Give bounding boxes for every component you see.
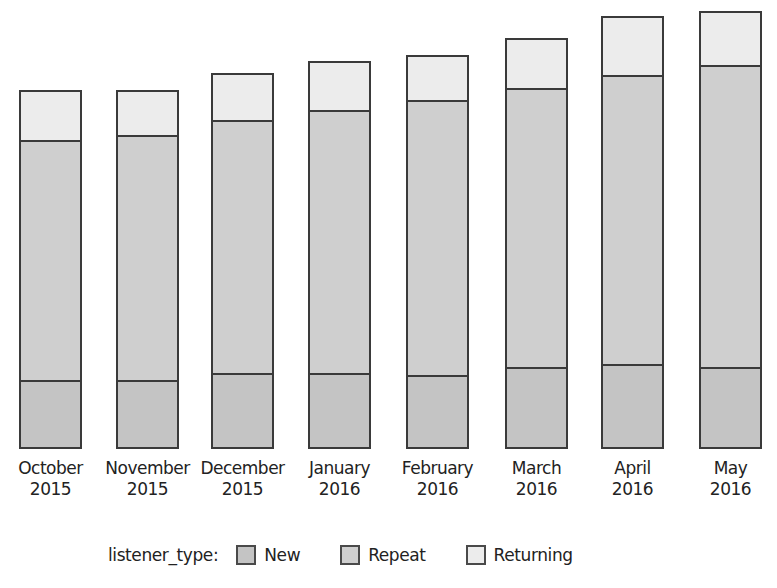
- segment-repeat: [21, 142, 80, 382]
- segment-returning: [603, 18, 662, 77]
- x-label-year: 2016: [578, 479, 688, 500]
- x-label-month: May: [676, 458, 777, 479]
- segment-repeat: [213, 122, 272, 375]
- x-label-year: 2016: [482, 479, 592, 500]
- segment-returning: [213, 75, 272, 122]
- segment-new: [507, 369, 566, 447]
- x-label-month: April: [578, 458, 688, 479]
- x-label-year: 2016: [285, 479, 395, 500]
- x-axis-label: May2016: [676, 458, 777, 500]
- segment-new: [213, 375, 272, 447]
- segment-repeat: [507, 90, 566, 369]
- legend-swatch-new: [236, 545, 256, 565]
- segment-returning: [310, 63, 369, 112]
- x-axis-label: February2016: [383, 458, 493, 500]
- x-axis-label: October2015: [0, 458, 106, 500]
- bar-may-2016: [699, 11, 762, 449]
- x-label-month: November: [93, 458, 203, 479]
- segment-repeat: [603, 77, 662, 366]
- segment-repeat: [310, 112, 369, 375]
- bar-december-2015: [211, 73, 274, 449]
- segment-repeat: [701, 67, 760, 369]
- x-label-year: 2015: [188, 479, 298, 500]
- legend-item-repeat: Repeat: [340, 545, 425, 565]
- stacked-bar-chart: October2015November2015December2015Janua…: [0, 0, 777, 588]
- x-label-month: October: [0, 458, 106, 479]
- x-label-month: January: [285, 458, 395, 479]
- legend-label-returning: Returning: [494, 545, 573, 565]
- bar-april-2016: [601, 16, 664, 449]
- segment-returning: [118, 92, 177, 137]
- x-axis-label: January2016: [285, 458, 395, 500]
- legend: listener_type: New Repeat Returning: [108, 542, 613, 568]
- x-label-year: 2015: [0, 479, 106, 500]
- x-label-year: 2015: [93, 479, 203, 500]
- x-label-month: February: [383, 458, 493, 479]
- x-label-year: 2016: [383, 479, 493, 500]
- segment-repeat: [408, 102, 467, 377]
- legend-label-repeat: Repeat: [368, 545, 425, 565]
- x-axis-label: December2015: [188, 458, 298, 500]
- segment-returning: [701, 13, 760, 67]
- legend-item-returning: Returning: [466, 545, 573, 565]
- segment-new: [408, 377, 467, 447]
- x-label-month: March: [482, 458, 592, 479]
- x-axis-label: November2015: [93, 458, 203, 500]
- legend-title: listener_type:: [108, 545, 218, 565]
- legend-swatch-returning: [466, 545, 486, 565]
- legend-swatch-repeat: [340, 545, 360, 565]
- segment-returning: [21, 92, 80, 142]
- segment-returning: [507, 40, 566, 90]
- x-label-month: December: [188, 458, 298, 479]
- segment-new: [701, 369, 760, 447]
- segment-new: [603, 366, 662, 447]
- segment-new: [21, 382, 80, 447]
- x-axis-label: March2016: [482, 458, 592, 500]
- x-axis-label: April2016: [578, 458, 688, 500]
- bar-january-2016: [308, 61, 371, 449]
- bar-february-2016: [406, 55, 469, 449]
- bar-march-2016: [505, 38, 568, 449]
- legend-label-new: New: [264, 545, 300, 565]
- bar-october-2015: [19, 90, 82, 449]
- segment-repeat: [118, 137, 177, 382]
- x-label-year: 2016: [676, 479, 777, 500]
- legend-item-new: New: [236, 545, 300, 565]
- segment-new: [310, 375, 369, 447]
- segment-returning: [408, 57, 467, 102]
- bar-november-2015: [116, 90, 179, 449]
- segment-new: [118, 382, 177, 447]
